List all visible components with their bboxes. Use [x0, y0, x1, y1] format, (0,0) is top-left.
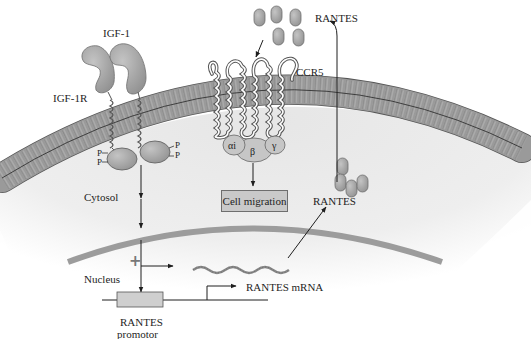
- label-promoter-line2: promotor: [117, 328, 158, 339]
- cell-migration-box: Cell migration: [221, 190, 288, 212]
- igf1-ligand: [82, 44, 146, 94]
- arrow-rantes-to-ccr5: [256, 40, 263, 57]
- phospho-label: P: [175, 151, 180, 160]
- label-rantes-mrna: RANTES mRNA: [246, 281, 323, 293]
- igf1r-kinase-right: [140, 141, 170, 163]
- label-g-alpha: αi: [228, 140, 236, 152]
- label-rantes-top: RANTES: [315, 12, 358, 24]
- phospho-label: P: [97, 158, 102, 167]
- rantes-promoter-box: [117, 292, 163, 307]
- label-g-beta: β: [250, 146, 255, 158]
- igf1r-kinase-left: [107, 148, 137, 170]
- label-rantes-mid: RANTES: [313, 195, 356, 207]
- label-igf1: IGF-1: [103, 27, 130, 39]
- label-cytosol: Cytosol: [84, 191, 118, 203]
- label-g-gamma: γ: [272, 140, 276, 152]
- label-ccr5: CCR5: [296, 66, 324, 78]
- label-promoter-line1: RANTES: [120, 316, 163, 328]
- label-nucleus: Nucleus: [84, 273, 120, 285]
- label-igf1r: IGF-1R: [53, 92, 87, 104]
- rantes-extracellular: [254, 6, 304, 46]
- plus-sign: +: [129, 255, 142, 267]
- phospho-label: P: [175, 141, 180, 150]
- pathway-diagram: IGF-1 IGF-1R RANTES CCR5 αi β γ P P P P …: [0, 0, 531, 339]
